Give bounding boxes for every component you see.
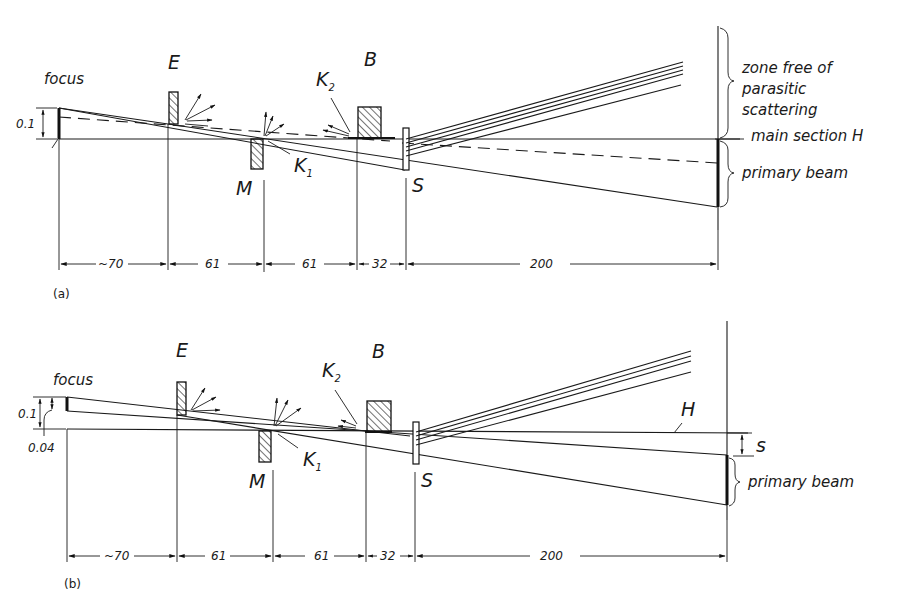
block-B (358, 107, 381, 138)
source-height-label-b: 0.1 (18, 407, 37, 421)
label-M: M (236, 177, 252, 199)
main-section-line-b (67, 429, 748, 433)
label-K2-b: K2 (322, 359, 341, 384)
scatter-arrow (341, 420, 356, 426)
dim-61b: 61 (302, 257, 317, 271)
label-K1: K1 (294, 154, 313, 179)
scattered-ray (416, 356, 691, 436)
scatter-arrow (323, 130, 349, 136)
zone-brace (720, 28, 734, 138)
H-leader (674, 423, 682, 433)
label-H: H (681, 398, 695, 420)
focus-label-b: focus (53, 371, 93, 389)
dim-61b-b: 61 (314, 549, 329, 563)
scattered-ray (406, 85, 681, 156)
scattered-ray (406, 66, 683, 143)
scatter-arrow (193, 410, 220, 411)
scattered-ray (416, 372, 691, 445)
dim-70: ~70 (98, 257, 124, 271)
primary-beam-label: primary beam (741, 164, 848, 182)
panel-b: focus 0.1 0.04 E M K1 K2 (18, 321, 854, 591)
K1-leader (268, 141, 290, 154)
scattered-ray (406, 62, 683, 139)
sample-S (403, 128, 409, 170)
dimension-chain-b: ~70 61 61 32 200 (69, 549, 725, 563)
dim-32-b: 32 (380, 549, 395, 563)
dim-200: 200 (530, 257, 553, 271)
dim-32: 32 (372, 257, 387, 271)
dim-0.04-leader (44, 410, 52, 436)
scatter-arrow (264, 112, 266, 136)
scatter-arrow (265, 116, 273, 136)
label-B: B (364, 48, 377, 70)
label-B-b: B (372, 340, 385, 362)
primary-beam-label-b: primary beam (747, 473, 854, 491)
scatter-arrow (186, 105, 215, 120)
label-K1-b: K1 (303, 448, 322, 473)
dimension-chain-a: ~70 61 61 32 200 (61, 257, 716, 271)
kratky-collimation-diagram: focus 0.1 E M K1 K2 (0, 0, 897, 611)
label-E-b: E (176, 339, 188, 361)
beam-edge-upper-b (67, 411, 727, 455)
panel-label-b: (b) (64, 577, 81, 591)
beam-ray-1 (59, 108, 168, 124)
primary-beam-brace-b (729, 458, 740, 506)
source-height-label: 0.1 (16, 117, 35, 131)
panel-label-a: (a) (53, 287, 70, 301)
scatter-line (185, 124, 208, 126)
label-S: S (412, 174, 424, 196)
block-M-b (259, 431, 271, 462)
dim-61a-b: 61 (211, 549, 226, 563)
panel-a: focus 0.1 E M K1 K2 (16, 26, 863, 301)
scattered-ray (406, 70, 683, 147)
scatter-arrow (187, 120, 212, 121)
K2-leader (331, 98, 350, 132)
block-B-b (367, 401, 391, 432)
main-section-label: main section H (751, 127, 863, 145)
label-E: E (168, 51, 180, 73)
dashed-ray-2 (402, 143, 717, 163)
zone-label-2: parasitic (741, 80, 807, 98)
slit-E (169, 92, 178, 124)
scatter-arrow (274, 398, 277, 426)
dim-70-b: ~70 (104, 549, 130, 563)
block-M (251, 139, 263, 169)
source-offset-label: 0.04 (28, 441, 55, 455)
label-S-b: S (421, 469, 433, 491)
zone-label-1: zone free of (741, 59, 834, 77)
scattered-ray (416, 351, 691, 432)
label-K2: K2 (316, 68, 335, 93)
K2-leader-b (335, 390, 357, 424)
dim-61a: 61 (205, 257, 220, 271)
scattered-ray (416, 361, 691, 440)
primary-beam-brace (720, 141, 734, 207)
dim-200-b: 200 (540, 549, 563, 563)
slit-E-b (177, 382, 186, 415)
label-s: s (756, 434, 766, 456)
zone-label-3: scattering (742, 101, 818, 119)
scatter-arrow (328, 125, 349, 134)
sample-S-b (413, 422, 419, 464)
focus-label: focus (44, 70, 84, 88)
label-M-b: M (249, 470, 265, 492)
focus-tick (52, 139, 58, 148)
K1-leader-b (278, 434, 298, 448)
